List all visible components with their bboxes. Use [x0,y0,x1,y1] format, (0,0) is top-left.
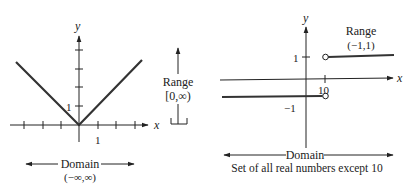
right-domain-label: Domain [286,148,325,162]
left-range-label: Range [163,75,194,89]
left-x-label: x [153,118,160,132]
upper-open-circle [323,54,329,60]
right-y-tick-neg-label: −1 [284,102,296,114]
right-graph: y x 1 −1 10 Range (−1,1) Domain Set of a… [220,11,403,175]
figure: y x 1 1 Range [0,∞) Domain (−∞,∞) y x 1 [0,0,408,188]
right-domain-value: Set of all real numbers except 10 [231,162,383,175]
lower-segment [222,96,323,97]
right-range-value: (−1,1) [347,39,375,52]
left-y-label: y [74,19,81,33]
right-x-label: x [396,71,403,85]
left-x-tick-one: 1 [95,134,101,146]
right-range-label: Range [346,24,377,38]
left-graph: y x 1 1 Range [0,∞) Domain (−∞,∞) [10,19,193,184]
upper-segment [328,55,394,57]
left-domain-value: (−∞,∞) [64,171,96,184]
right-x-tick-ten-label: 10 [318,84,330,96]
left-y-tick-one: 1 [66,101,72,113]
right-y-label: y [302,11,309,25]
left-range-value: [0,∞) [165,89,191,103]
left-domain-label: Domain [61,157,100,171]
right-y-tick-pos-label: 1 [293,52,299,64]
left-range-bracket [171,118,187,124]
